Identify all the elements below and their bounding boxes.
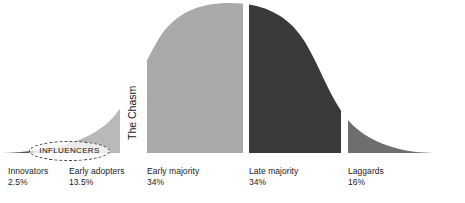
segment-name: Late majority bbox=[249, 166, 298, 176]
segment-label-innovators: Innovators 2.5% bbox=[8, 166, 48, 188]
segment-percent: 2.5% bbox=[8, 177, 48, 188]
curve-segments bbox=[2, 3, 437, 153]
segment-name: Innovators bbox=[8, 166, 48, 176]
segment-name: Laggards bbox=[348, 166, 384, 176]
segment-early-majority bbox=[2, 3, 437, 153]
segment-percent: 16% bbox=[348, 177, 384, 188]
segment-name: Early adopters bbox=[69, 166, 125, 176]
segment-percent: 13.5% bbox=[69, 177, 125, 188]
segment-label-early-adopters: Early adopters 13.5% bbox=[69, 166, 125, 188]
segment-name: Early majority bbox=[147, 166, 199, 176]
segment-percent: 34% bbox=[147, 177, 199, 188]
segment-label-early-majority: Early majority 34% bbox=[147, 166, 199, 188]
segment-percent: 34% bbox=[249, 177, 298, 188]
influencers-callout-label: INFLUENCERS bbox=[29, 146, 110, 155]
segment-label-late-majority: Late majority 34% bbox=[249, 166, 298, 188]
diffusion-of-innovation-diagram: The Chasm INFLUENCERS Innovators 2.5% Ea… bbox=[0, 0, 465, 203]
segment-label-laggards: Laggards 16% bbox=[348, 166, 384, 188]
chasm-label: The Chasm bbox=[126, 124, 192, 140]
